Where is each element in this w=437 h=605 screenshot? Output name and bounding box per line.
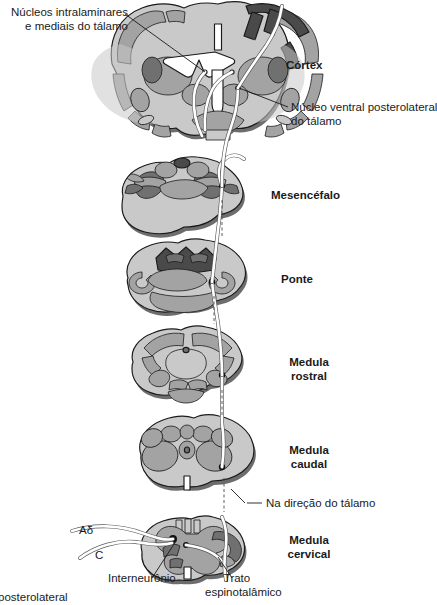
label-clipped-bottom: posterolateral <box>0 591 68 605</box>
midline-slit <box>215 24 222 50</box>
label-medulla-caudal: Medula caudal <box>272 444 346 471</box>
section-pons <box>127 239 248 316</box>
leader-toward-thalamus-hook <box>231 489 245 503</box>
section-medulla-caudal <box>138 415 256 491</box>
label-toward-thalamus: Na direção do tálamo <box>266 497 375 511</box>
label-spinothalamic-tract: Trato espinotalâmico <box>205 572 269 599</box>
label-interneuron: Interneurônio <box>108 572 176 586</box>
label-midbrain: Mesencéfalo <box>271 189 340 203</box>
section-medulla-rostral <box>132 326 244 403</box>
label-fiber-c: C <box>95 549 103 563</box>
label-cortex: Córtex <box>286 59 322 73</box>
label-medulla-rostral: Medula rostral <box>272 356 346 383</box>
section-midbrain <box>122 157 245 238</box>
label-fiber-a-delta: Aδ <box>79 524 93 538</box>
label-vpl-nucleus: Núcleo ventral posterolateral do tálamo <box>291 101 437 128</box>
label-medulla-cervical: Medula cervical <box>272 534 346 561</box>
label-intralaminar-nuclei: Núcleos intralaminares e mediais do tála… <box>0 6 128 33</box>
label-pons: Ponte <box>281 273 313 287</box>
